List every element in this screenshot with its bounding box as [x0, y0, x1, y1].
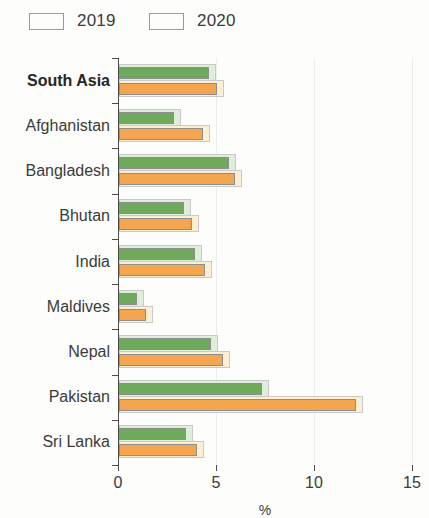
bar-bangladesh-2020[interactable]	[119, 173, 235, 185]
bar-sri-lanka-2019[interactable]	[119, 428, 186, 440]
y-tick-0	[112, 58, 118, 59]
y-tick-3	[112, 194, 118, 195]
x-tick-15	[412, 465, 413, 471]
bar-afghanistan-2020[interactable]	[119, 128, 203, 140]
bar-nepal-2019[interactable]	[119, 338, 211, 350]
y-tick-2	[112, 148, 118, 149]
bar-series-layer	[119, 46, 429, 510]
category-label-afghanistan: Afghanistan	[6, 117, 110, 135]
legend-item-2019: 2019	[29, 11, 116, 31]
legend-label-2020: 2020	[197, 11, 236, 31]
legend-label-2019: 2019	[77, 11, 116, 31]
y-tick-7	[112, 375, 118, 376]
bar-bangladesh-2019[interactable]	[119, 157, 229, 169]
x-tick-label-15: 15	[403, 474, 421, 492]
legend-swatch-green-icon	[29, 13, 64, 30]
bar-india-2019[interactable]	[119, 248, 195, 260]
bar-south-asia-2020[interactable]	[119, 83, 217, 95]
bar-afghanistan-2019[interactable]	[119, 112, 174, 124]
bar-india-2020[interactable]	[119, 264, 205, 276]
bar-chart-plot: South AsiaAfghanistanBangladeshBhutanInd…	[0, 46, 429, 510]
bar-sri-lanka-2020[interactable]	[119, 444, 197, 456]
bar-bhutan-2020[interactable]	[119, 218, 192, 230]
bar-maldives-2020[interactable]	[119, 309, 146, 321]
category-label-sri-lanka: Sri Lanka	[6, 433, 110, 451]
x-tick-label-5: 5	[212, 474, 221, 492]
x-tick-label-10: 10	[305, 474, 323, 492]
y-tick-5	[112, 284, 118, 285]
y-tick-4	[112, 239, 118, 240]
legend-item-2020: 2020	[149, 11, 236, 31]
category-axis-labels: South AsiaAfghanistanBangladeshBhutanInd…	[0, 46, 110, 510]
x-tick-5	[216, 465, 217, 471]
category-label-maldives: Maldives	[6, 298, 110, 316]
x-tick-0	[118, 465, 119, 471]
category-label-nepal: Nepal	[6, 343, 110, 361]
legend-swatch-orange-icon	[149, 13, 184, 30]
bar-south-asia-2019[interactable]	[119, 67, 209, 79]
y-tick-6	[112, 329, 118, 330]
category-label-bangladesh: Bangladesh	[6, 162, 110, 180]
bar-pakistan-2020[interactable]	[119, 399, 356, 411]
chart-legend: 2019 2020	[0, 0, 429, 46]
bar-bhutan-2019[interactable]	[119, 202, 184, 214]
x-tick-label-0: 0	[114, 474, 123, 492]
category-label-india: India	[6, 253, 110, 271]
bar-nepal-2020[interactable]	[119, 354, 223, 366]
category-label-bhutan: Bhutan	[6, 207, 110, 225]
x-axis-title: %	[259, 502, 271, 518]
y-tick-8	[112, 420, 118, 421]
x-tick-10	[314, 465, 315, 471]
category-label-south-asia: South Asia	[6, 72, 110, 90]
y-tick-1	[112, 103, 118, 104]
bar-maldives-2019[interactable]	[119, 293, 137, 305]
bar-pakistan-2019[interactable]	[119, 383, 262, 395]
category-label-pakistan: Pakistan	[6, 388, 110, 406]
